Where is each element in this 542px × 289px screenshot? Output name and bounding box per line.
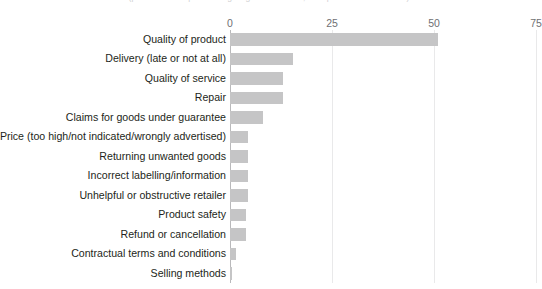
chart-title: (per cent of respondents giving each ans…: [0, 0, 538, 3]
category-label: Selling methods: [151, 264, 226, 283]
category-label: Contractual terms and conditions: [71, 244, 226, 263]
bar-track: [230, 170, 248, 183]
category-label: Returning unwanted goods: [99, 147, 226, 166]
x-tick-label: 50: [428, 16, 440, 30]
bar: [230, 53, 293, 66]
bar-track: [230, 53, 293, 66]
category-label: Refund or cancellation: [121, 225, 226, 244]
bar-row: Refund or cancellation: [0, 225, 538, 244]
bar-track: [230, 209, 246, 222]
category-label: Claims for goods under guarantee: [66, 108, 226, 127]
bar: [230, 170, 248, 183]
bar: [230, 131, 248, 144]
x-tick-label: 75: [530, 16, 542, 30]
category-label: Product safety: [158, 205, 226, 224]
x-tick-label: 0: [227, 16, 233, 30]
bar-track: [230, 131, 248, 144]
bar-row: Contractual terms and conditions: [0, 244, 538, 263]
bar-track: [230, 189, 248, 202]
bar-track: [230, 111, 263, 124]
bar-rows: Quality of productDelivery (late or not …: [0, 30, 538, 283]
x-axis-tick-labels: 0255075: [0, 16, 538, 30]
category-label: Unhelpful or obstructive retailer: [79, 186, 226, 205]
bar: [230, 72, 283, 85]
bar: [230, 248, 236, 261]
bar: [230, 228, 246, 241]
bar: [230, 33, 438, 46]
bar-row: Unhelpful or obstructive retailer: [0, 186, 538, 205]
bar-row: Selling methods: [0, 264, 538, 283]
bar-track: [230, 92, 283, 105]
bar-row: Quality of product: [0, 30, 538, 49]
bar-track: [230, 33, 438, 46]
bar-row: Delivery (late or not at all): [0, 49, 538, 68]
bar-track: [230, 150, 248, 163]
category-label: Incorrect labelling/information: [88, 166, 226, 185]
bar-row: Returning unwanted goods: [0, 147, 538, 166]
bar-row: Repair: [0, 88, 538, 107]
bar-row: Claims for goods under guarantee: [0, 108, 538, 127]
bar: [230, 92, 283, 105]
x-tick-label: 25: [326, 16, 338, 30]
bar: [230, 209, 246, 222]
bar-track: [230, 248, 236, 261]
bar-track: [230, 267, 232, 280]
bar-row: Product safety: [0, 205, 538, 224]
bar-row: Incorrect labelling/information: [0, 166, 538, 185]
bar-track: [230, 228, 246, 241]
category-label: Repair: [195, 88, 226, 107]
bar: [230, 150, 248, 163]
bar: [230, 267, 232, 280]
category-label: Quality of product: [143, 30, 226, 49]
bar-row: Price (too high/not indicated/wrongly ad…: [0, 127, 538, 146]
category-label: Quality of service: [145, 69, 226, 88]
bar: [230, 189, 248, 202]
category-label: Price (too high/not indicated/wrongly ad…: [0, 127, 226, 146]
bar-row: Quality of service: [0, 69, 538, 88]
bar: [230, 111, 263, 124]
category-label: Delivery (late or not at all): [105, 49, 226, 68]
bar-track: [230, 72, 283, 85]
